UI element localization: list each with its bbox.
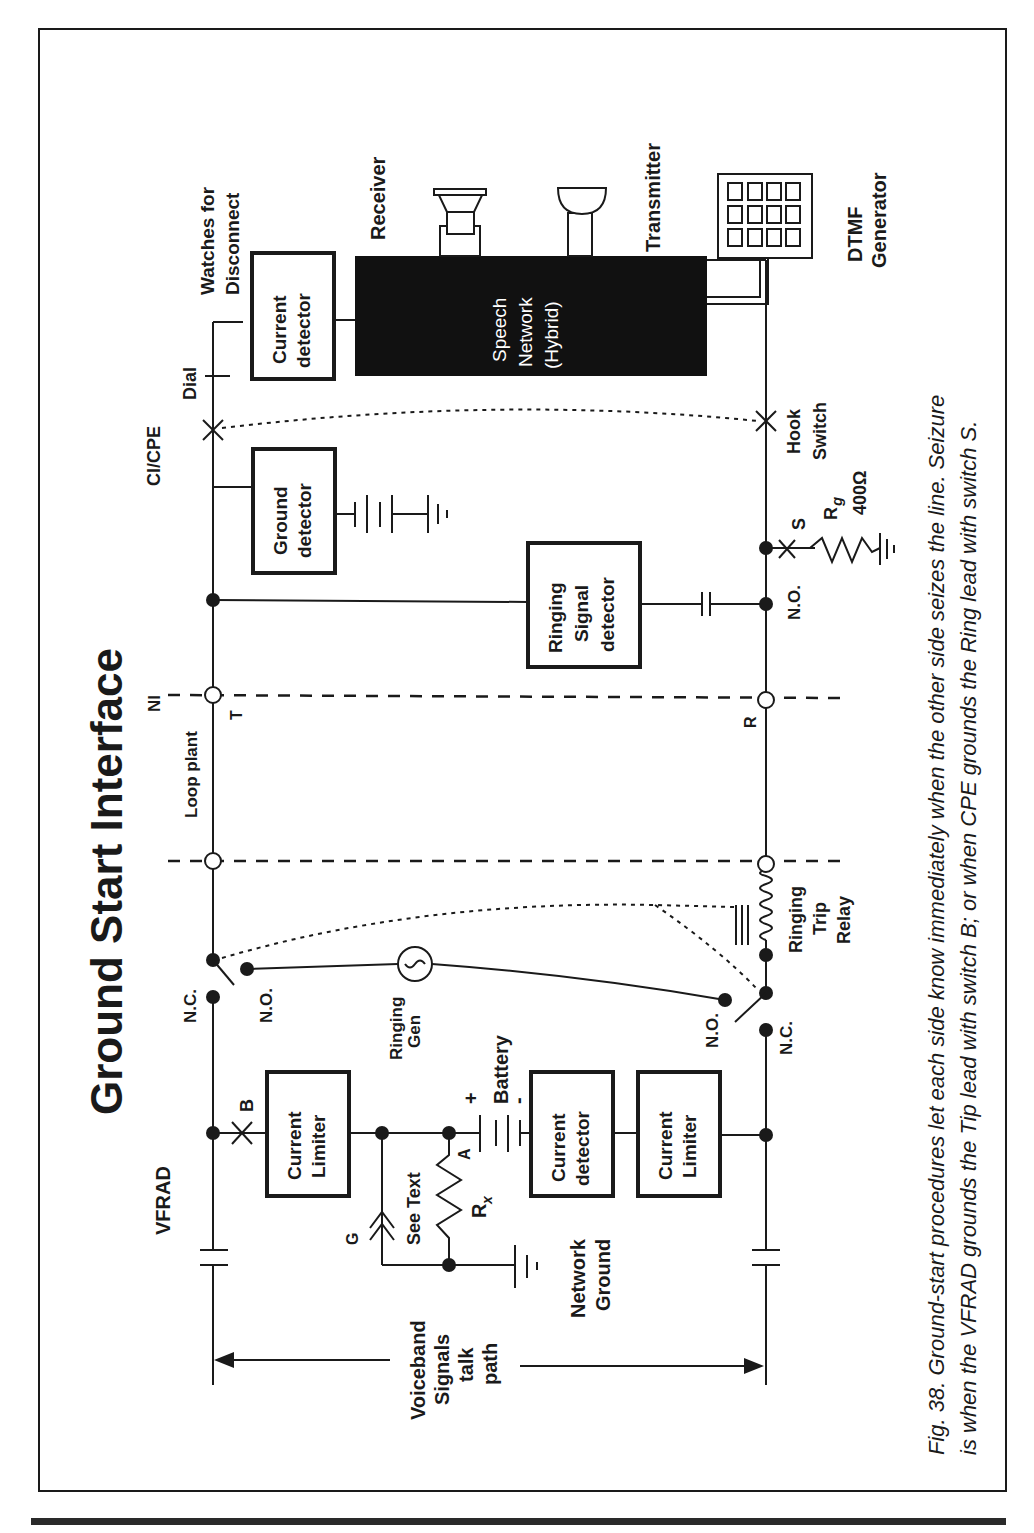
ringing-signal-detector-l2: Signal [571,585,592,642]
current-detector-cpe-l1: Current [269,295,290,364]
tip-terminal-label: T [228,710,245,720]
dtmf-generator-l1: DTMF [844,206,866,262]
rg-resistor-icon [810,538,880,562]
tip-no-label: N.O. [257,988,276,1023]
battery-label: Battery [490,1034,512,1104]
rx-label: R [468,1203,490,1218]
current-detector-network-l2: detector [572,1110,593,1186]
talk-path-label-3: talk [455,1347,477,1382]
ring-no-contact [718,993,732,1007]
tip-nc-label: N.C. [181,989,200,1023]
current-limiter-ring-l2: Limiter [679,1114,700,1178]
ringing-trip-relay-coil-icon [760,870,772,940]
current-detector-cpe-l2: detector [293,292,314,368]
speech-network-l2: Network [515,297,536,367]
network-ground-l2: Ground [592,1239,614,1311]
ring-no-label: N.O. [703,1013,722,1048]
speech-network-l3: (Hybrid) [541,301,562,369]
switch-b-label: B [237,1099,257,1112]
dial-label: Dial [180,367,200,400]
rg-subscript: g [828,497,845,507]
ringing-signal-detector-l3: detector [597,576,618,652]
watches-disconnect-l2: Disconnect [222,192,243,295]
battery-minus: - [507,1097,529,1104]
ci-cpe-label: CI/CPE [144,426,164,486]
ground-detector-battery-icon [355,495,447,533]
ground-start-diagram: Ground Start Interface Fig. 38. Ground-s… [0,0,1034,1533]
speech-network-l1: Speech [489,298,510,362]
cpe-ground-icon [880,533,894,565]
relay-linkage-tip [222,905,735,958]
hook-switch-l1: Hook [784,408,804,454]
g-label: G [344,1233,361,1245]
rg-label: R [821,507,841,520]
page-rule [31,1518,1006,1525]
talk-path-label-2: Signals [431,1334,453,1405]
network-ground-l1: Network [567,1238,589,1318]
transmitter-label: Transmitter [642,143,664,252]
ni-boundary [168,695,840,698]
dtmf-generator-l2: Generator [868,172,890,268]
ringing-trip-relay-l2: Trip [810,902,830,935]
caption-line-1: Fig. 38. Ground-start procedures let eac… [924,395,949,1455]
node-a-label: A [456,1148,473,1160]
ringing-signal-detector-l1: Ringing [545,582,566,653]
ground-detector-l2: detector [294,482,315,558]
cpe-no-label: N.O. [785,585,804,620]
ringing-gen-l2: Gen [405,1015,424,1048]
ring-terminal [758,692,774,708]
battery-icon [480,1115,531,1152]
tip-lead [200,322,243,1385]
ringing-trip-relay-l3: Relay [834,896,854,944]
receiver-label: Receiver [367,156,389,240]
rg-value-label: 400Ω [850,471,870,515]
switch-s-label: S [789,518,809,530]
talk-path-label-4: path [479,1343,501,1385]
see-text-label: See Text [404,1172,424,1245]
ring-terminal-label: R [742,716,759,728]
ring-lead [706,260,780,1385]
talk-path-label-1: Voiceband [407,1320,429,1420]
tip-terminal [205,687,221,703]
network-ground-icon [515,1245,537,1288]
rx-subscript: x [479,1195,495,1205]
caption-line-2: is when the VFRAD grounds the Tip lead w… [956,421,981,1455]
ni-label: NI [145,695,164,712]
receiver-icon [434,189,486,256]
battery-plus: + [460,1092,482,1104]
ring-nc-label: N.C. [777,1021,796,1055]
hook-switch-linkage [222,410,758,428]
current-limiter-tip-l1: Current [284,1111,305,1180]
current-limiter-tip-l2: Limiter [308,1114,329,1178]
figure-title: Ground Start Interface [82,648,131,1115]
transmitter-icon [558,188,606,256]
ring-relay-armature [735,993,766,1022]
current-detector-network-l1: Current [548,1113,569,1182]
ringing-trip-relay-l1: Ringing [786,886,806,953]
ring-nc-contact [759,1023,773,1037]
current-limiter-ring-l1: Current [655,1111,676,1180]
hook-switch-l2: Switch [810,402,830,460]
ringing-gen-l1: Ringing [387,997,406,1060]
vfrad-label: VFRAD [152,1166,174,1235]
watches-disconnect-l1: Watches for [197,186,218,295]
ground-detector-l1: Ground [270,486,291,555]
loop-plant-label: Loop plant [182,731,201,818]
dtmf-keypad-icon [707,174,812,304]
tip-relay-armature [213,960,234,985]
tip-nc-contact [206,990,220,1004]
capacitor-icon [702,592,710,616]
